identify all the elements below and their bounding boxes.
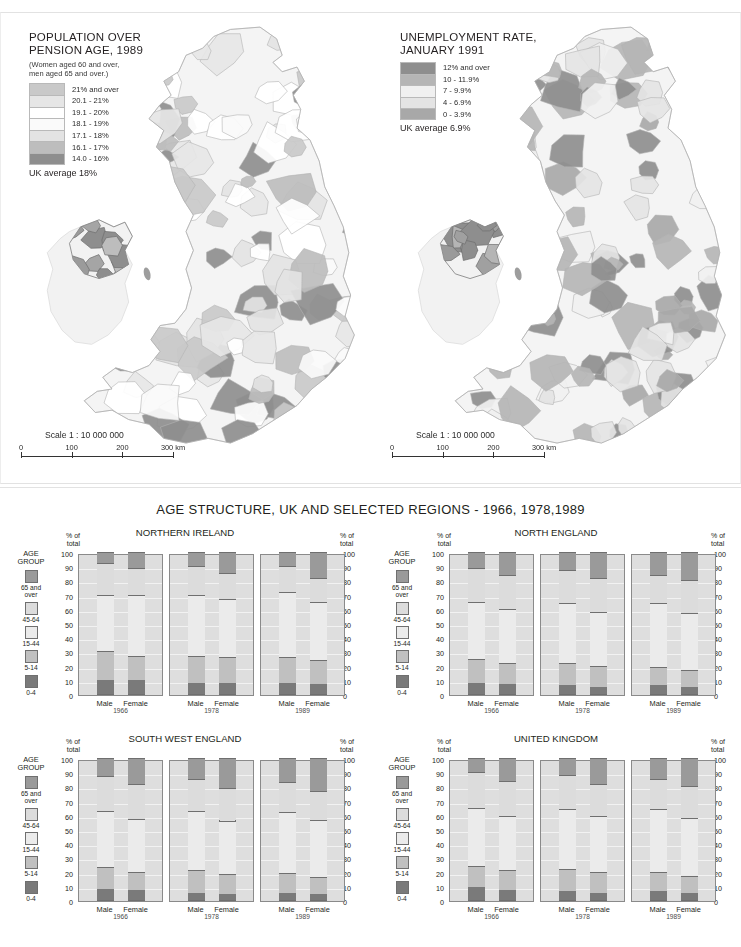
age-group-swatch (396, 776, 409, 789)
legend-swatch (29, 107, 65, 119)
legend-row: 20.1 - 21% (29, 95, 209, 107)
legend-average: UK average 6.9% (400, 123, 580, 133)
age-group-key: AGE GROUP65 and over45-6415-445-140-4 (8, 550, 54, 696)
year-label: 1966 (477, 913, 507, 920)
scale-tick (122, 452, 123, 458)
y-axis-tick-label: 40 (714, 635, 731, 644)
map-subtitle: (Women aged 60 and over, men aged 65 and… (29, 60, 209, 78)
bar-segment-65-and-over (219, 552, 236, 573)
y-axis-tick-label: 70 (56, 593, 73, 602)
bar-segment-5-14 (279, 873, 296, 893)
bar-segment-5-14 (468, 866, 485, 887)
legend-row: 4 - 6.9% (400, 97, 580, 109)
legend-row: 17.1 - 18% (29, 130, 209, 142)
year-panel-1989 (260, 554, 345, 696)
bar-segment-15-44 (310, 602, 327, 660)
bar-segment-5-14 (681, 876, 698, 893)
bar-segment-65-and-over (468, 552, 485, 568)
y-axis-tick-label: 70 (56, 799, 73, 808)
legend-row: 12% and over (400, 62, 580, 74)
y-axis-tick-label: 90 (56, 564, 73, 573)
gridline (450, 889, 533, 890)
gridline (632, 804, 715, 805)
bar-segment-65-and-over (499, 758, 516, 781)
scale-tick-label: 300 km (532, 443, 556, 452)
y-axis-tick-label: 10 (427, 678, 444, 687)
bar-segment-65-and-over (499, 552, 516, 575)
y-axis-tick-label: 50 (56, 827, 73, 836)
bar-segment-5-14 (559, 663, 576, 686)
charts-section: AGE STRUCTURE, UK AND SELECTED REGIONS -… (0, 487, 741, 947)
y-axis-tick-label: 20 (427, 664, 444, 673)
bar-segment-0-4 (468, 887, 485, 900)
gridline (450, 683, 533, 684)
y-axis-tick-label: 80 (714, 578, 731, 587)
gridline (450, 612, 533, 613)
y-axis-tick-label: 50 (56, 621, 73, 630)
gridline (261, 669, 344, 670)
gridline (79, 860, 162, 861)
age-group-swatch (396, 832, 409, 845)
bar-segment-0-4 (310, 684, 327, 694)
bar-segment-45-64 (468, 772, 485, 808)
stacked-bar-1978-female (219, 555, 236, 695)
bar-segment-45-64 (499, 575, 516, 609)
age-group-label: 15-44 (379, 640, 425, 647)
gridline (170, 669, 253, 670)
bar-segment-15-44 (499, 816, 516, 870)
scale-tick-label: 200 (116, 443, 128, 452)
bar-segment-45-64 (279, 782, 296, 812)
gridline (632, 654, 715, 655)
y-axis-tick-label: 80 (56, 578, 73, 587)
gridline (170, 640, 253, 641)
legend-swatch (29, 130, 65, 142)
age-group-label: 65 and over (8, 584, 54, 599)
age-group-label: 45-64 (8, 616, 54, 623)
age-group-label: 5-14 (8, 870, 54, 877)
age-group-key-item: 15-44 (8, 832, 54, 853)
y-axis-tick-label: 70 (343, 593, 360, 602)
gridline (261, 583, 344, 584)
age-group-key-item: 5-14 (379, 856, 425, 877)
scale-tick-label: 200 (487, 443, 499, 452)
legend-swatch (29, 153, 65, 165)
year-panel-1966 (449, 554, 534, 696)
bar-segment-65-and-over (310, 758, 327, 791)
bar-segment-65-and-over (219, 758, 236, 788)
age-group-swatch (396, 856, 409, 869)
stacked-bar-1989-female (310, 761, 327, 901)
stacked-bar-1966-female (499, 555, 516, 695)
gridline (450, 804, 533, 805)
gridline (450, 818, 533, 819)
gridline (261, 569, 344, 570)
gridline (632, 583, 715, 584)
bar-segment-45-64 (310, 578, 327, 602)
bar-segment-45-64 (128, 784, 145, 820)
bar-segment-0-4 (590, 893, 607, 900)
bar-segment-45-64 (188, 566, 205, 594)
gridline (450, 846, 533, 847)
age-group-key-item: 5-14 (8, 856, 54, 877)
chart-title: SOUTH WEST ENGLAND (0, 733, 370, 744)
age-group-label: 45-64 (379, 822, 425, 829)
gridline (541, 683, 624, 684)
axis-unit-label: % of total (340, 738, 362, 754)
gridline (632, 889, 715, 890)
gridline (261, 832, 344, 833)
axis-unit-label: % of total (429, 738, 451, 754)
gridline (261, 789, 344, 790)
scale-tick-label: 100 (65, 443, 77, 452)
gridline (170, 583, 253, 584)
bar-segment-65-and-over (468, 758, 485, 772)
scale-text: Scale 1 : 10 000 000 (45, 430, 207, 440)
bar-segment-0-4 (559, 685, 576, 694)
age-group-swatch (25, 626, 38, 639)
age-group-label: 5-14 (379, 664, 425, 671)
year-label: 1978 (568, 913, 598, 920)
age-group-key-item: 5-14 (379, 650, 425, 671)
scale-ticks: 0100200300 km (388, 444, 578, 461)
gridline (541, 626, 624, 627)
y-axis-tick-label: 0 (427, 692, 444, 701)
stacked-bar-1989-male (279, 555, 296, 695)
age-group-key-item: 65 and over (8, 570, 54, 599)
